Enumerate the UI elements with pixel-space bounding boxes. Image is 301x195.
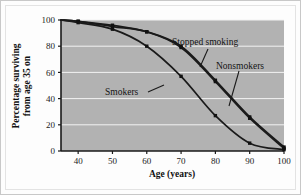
series-label-stopped-smoking: Stopped smoking — [172, 37, 238, 47]
y-axis-title-line2: from age 35 on — [22, 55, 32, 116]
y-tick-label-40: 40 — [46, 94, 56, 104]
data-point-60 — [145, 30, 148, 33]
data-point-70 — [179, 75, 182, 78]
data-point-80 — [214, 80, 217, 83]
y-tick-label-100: 100 — [42, 15, 56, 25]
data-point-60 — [145, 45, 148, 48]
x-tick-label-80: 80 — [211, 156, 221, 166]
survival-line-chart: 405060708090100 020406080100 Stopped smo… — [1, 1, 301, 195]
x-axis-ticks: 405060708090100 — [74, 151, 292, 166]
x-tick-label-50: 50 — [108, 156, 118, 166]
data-point-80 — [214, 114, 217, 117]
y-tick-label-80: 80 — [46, 41, 56, 51]
y-axis-ticks: 020406080100 — [42, 15, 62, 156]
y-tick-label-0: 0 — [51, 146, 56, 156]
x-axis-title: Age (years) — [149, 169, 195, 180]
data-point-40 — [76, 21, 79, 24]
x-tick-label-90: 90 — [245, 156, 255, 166]
x-tick-label-100: 100 — [277, 156, 291, 166]
x-tick-label-70: 70 — [177, 156, 187, 166]
x-tick-label-40: 40 — [74, 156, 84, 166]
data-point-100 — [282, 148, 285, 151]
series-label-nonsmokers: Nonsmokers — [216, 61, 264, 71]
data-point-90 — [248, 141, 251, 144]
data-point-90 — [248, 117, 251, 120]
series-label-smokers: Smokers — [105, 87, 139, 97]
y-tick-label-60: 60 — [46, 68, 56, 78]
y-axis-title-line1: Percentage surviving — [11, 43, 21, 128]
data-point-50 — [111, 27, 114, 30]
figure-container: 405060708090100 020406080100 Stopped smo… — [0, 0, 301, 195]
y-tick-label-20: 20 — [46, 120, 56, 130]
x-tick-label-60: 60 — [142, 156, 152, 166]
